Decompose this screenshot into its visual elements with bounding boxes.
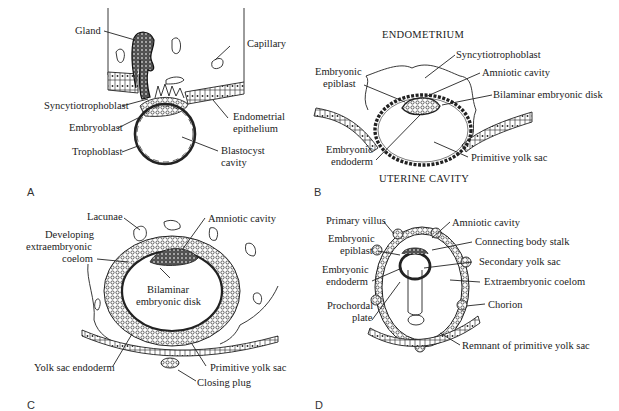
label-prochordal-plate-2: plate <box>352 312 372 324</box>
label-endometrial-epithelium-1: Endometrial <box>233 111 285 123</box>
panel-d-drawing <box>368 222 485 352</box>
label-developing-1: Developing <box>45 229 94 241</box>
label-lacunae: Lacunae <box>87 211 123 223</box>
label-embryonic-epiblast-2: epiblast <box>323 78 356 90</box>
label-primitive-yolk-sac: Primitive yolk sac <box>210 362 286 374</box>
label-embryonic-endoderm-1: Embryonic <box>322 264 369 276</box>
label-endometrial-epithelium-2: epithelium <box>233 123 278 135</box>
label-embryonic-endoderm-2: endoderm <box>326 276 368 288</box>
label-remnant-primitive-yolk-sac: Remnant of primitive yolk sac <box>462 340 590 352</box>
label-developing-3: coelom <box>62 253 93 265</box>
label-secondary-yolk-sac: Secondary yolk sac <box>479 256 561 268</box>
label-extraembryonic-coelom: Extraembryonic coelom <box>484 276 585 288</box>
label-gland: Gland <box>75 25 101 37</box>
label-syncytiotrophoblast: Syncytiotrophoblast <box>44 100 129 112</box>
label-syncytiotrophoblast: Syncytiotrophoblast <box>456 49 541 61</box>
label-bilaminar-1: Bilaminar <box>147 284 189 296</box>
panel-a-drawing <box>104 8 244 164</box>
label-uterine-cavity: UTERINE CAVITY <box>379 173 469 185</box>
label-bilaminar-embryonic-disk: Bilaminar embryonic disk <box>493 89 603 101</box>
label-trophoblast: Trophoblast <box>72 146 122 158</box>
label-amniotic-cavity: Amniotic cavity <box>452 217 520 229</box>
label-amniotic-cavity: Amniotic cavity <box>208 213 276 225</box>
label-embryonic-endoderm-1: Embryonic <box>326 144 373 156</box>
panel-letter-c: C <box>27 399 35 411</box>
label-chorion: Chorion <box>488 299 522 311</box>
panel-letter-b: B <box>314 186 321 198</box>
label-primitive-yolk-sac: Primitive yolk sac <box>471 152 547 164</box>
label-prochordal-plate-1: Prochordal <box>327 300 373 312</box>
label-embryonic-endoderm-2: endoderm <box>331 156 373 168</box>
label-embryonic-epiblast-1: Embryonic <box>328 233 375 245</box>
label-embryonic-epiblast-1: Embryonic <box>315 66 362 78</box>
label-embryonic-epiblast-2: epiblast <box>340 245 373 257</box>
label-capillary: Capillary <box>247 38 286 50</box>
label-blastocyst-cavity-1: Blastocyst <box>221 145 265 157</box>
label-primary-villus: Primary villus <box>326 215 386 227</box>
label-blastocyst-cavity-2: cavity <box>221 157 247 169</box>
label-connecting-body-stalk: Connecting body stalk <box>475 236 570 248</box>
label-developing-2: extraembryonic <box>26 241 92 253</box>
panel-letter-a: A <box>27 186 34 198</box>
label-closing-plug: Closing plug <box>197 377 251 389</box>
label-amniotic-cavity: Amniotic cavity <box>482 67 550 79</box>
panel-letter-d: D <box>315 399 323 411</box>
label-embryoblast: Embryoblast <box>69 122 123 134</box>
figure-embryo-implantation: Gland Capillary Syncytiotrophoblast Endo… <box>0 0 619 411</box>
label-yolk-sac-endoderm: Yolk sac endoderm <box>34 362 115 374</box>
label-endometrium: ENDOMETRIUM <box>382 29 464 41</box>
label-bilaminar-2: embryonic disk <box>136 296 201 308</box>
